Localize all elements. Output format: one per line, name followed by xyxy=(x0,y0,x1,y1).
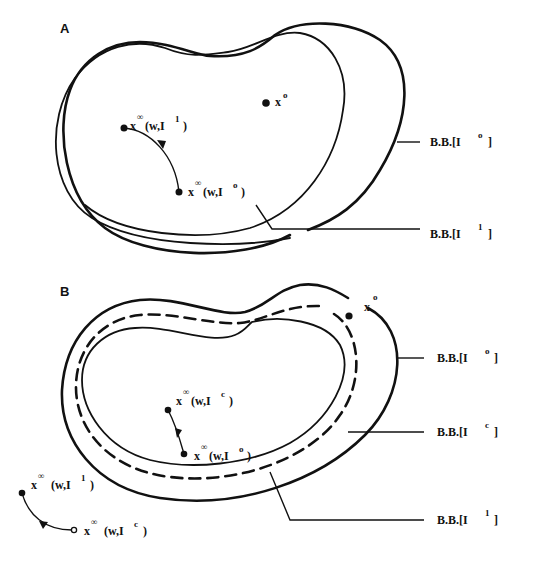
point-x0-a xyxy=(262,99,270,107)
adjustment-path-b-outer xyxy=(22,493,72,530)
adjustment-path-a xyxy=(124,128,179,192)
boundary-label-i1-a: B.B.[I1] xyxy=(430,222,492,241)
panel-b: B xo x∞(w,Ic) x∞(w,Io) x∞(w,I1) xyxy=(19,284,498,538)
boundary-label-i0-a: B.B.[Io] xyxy=(430,130,492,149)
budget-boundary-i0-curve xyxy=(63,24,404,254)
label-x-inf-i1-a: x∞(w,I1) xyxy=(130,112,187,133)
label-x-inf-i1-b: x∞(w,I1) xyxy=(31,471,94,492)
label-x-inf-ic-b: x∞(w,Ic) xyxy=(176,387,233,408)
label-x0-a: xo xyxy=(275,90,288,109)
open-point-x-inf-ic-b xyxy=(71,527,76,532)
point-x0-b xyxy=(345,312,352,319)
panel-label-b: B xyxy=(60,284,69,299)
label-x-inf-i0-a: x∞(w,Io) xyxy=(188,178,245,199)
diagram-canvas: A xo x∞(w,I1) x∞(w,Io) B.B.[Io] B.B.[I1] xyxy=(0,0,546,564)
boundary-label-i1-b: B.B.[I1] xyxy=(437,508,498,527)
boundary-label-i0-b: B.B.[Io] xyxy=(437,346,498,365)
leader-line-i1-a xyxy=(256,205,420,229)
budget-boundary-i1-curve-b xyxy=(82,319,344,465)
panel-label-a: A xyxy=(60,21,70,36)
budget-boundary-i1-curve xyxy=(56,33,345,244)
panel-a: A xo x∞(w,I1) x∞(w,Io) B.B.[Io] B.B.[I1] xyxy=(56,21,492,253)
leader-line-i1-b xyxy=(270,472,424,520)
point-x-inf-i0-b xyxy=(181,451,188,458)
label-x-inf-ic-outer-b: x∞(w,Ic) xyxy=(84,517,147,538)
boundary-label-ic-b: B.B.[Ic] xyxy=(437,420,498,439)
point-x-inf-i0-a xyxy=(176,189,183,196)
